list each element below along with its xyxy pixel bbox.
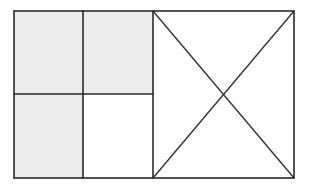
grid-cell-bottom-left (14, 94, 83, 178)
figure (0, 0, 310, 191)
grid-cell-top-left (14, 11, 83, 94)
grid-cell-bottom-right (83, 94, 153, 178)
grid-cell-top-right (83, 11, 153, 94)
